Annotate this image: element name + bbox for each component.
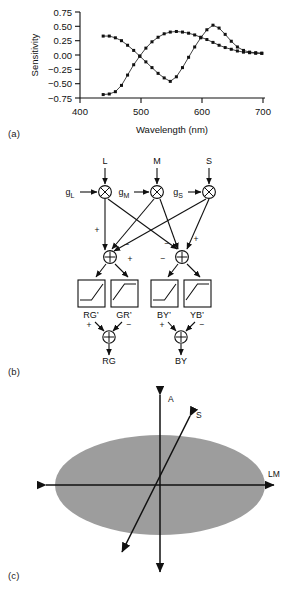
- y-tick-label: 0.75: [54, 7, 73, 18]
- sign-minus-L-sum2: −: [165, 238, 170, 248]
- input-label-S: S: [206, 156, 212, 166]
- chart-series-rg: [102, 30, 264, 96]
- series-marker: [144, 60, 147, 63]
- axis-label-A: A: [168, 394, 174, 404]
- series-marker: [218, 44, 221, 47]
- series-marker: [157, 36, 160, 39]
- rectifier-box-by-prime: [151, 280, 178, 307]
- series-marker: [211, 24, 214, 27]
- y-tick-label: 0.00: [54, 50, 73, 61]
- series-marker: [187, 32, 190, 35]
- series-marker: [120, 84, 123, 87]
- diagram-svg: L M S gL gM gS: [0, 150, 288, 365]
- sum-to-rectifier-arrows: [96, 264, 200, 277]
- figure-root: 0.75 0.50 0.25 0.00 −0.25 −0.50 −0.75 40…: [0, 0, 288, 604]
- gain-label-gL: gL: [66, 187, 75, 199]
- series-line: [103, 25, 262, 81]
- series-marker: [181, 31, 184, 34]
- cone-input-labels: L M S: [102, 156, 212, 166]
- panel-a-label: (a): [8, 128, 20, 139]
- series-marker: [157, 72, 160, 75]
- y-tick-label: 0.25: [54, 35, 73, 46]
- input-label-M: M: [153, 156, 161, 166]
- sign-plus-S-sum1: +: [128, 254, 133, 264]
- y-tick-labels: 0.75 0.50 0.25 0.00 −0.25 −0.50 −0.75: [48, 7, 72, 104]
- series-marker: [126, 74, 129, 77]
- series-marker: [169, 31, 172, 34]
- sign-plus-rg-prime: +: [87, 320, 92, 330]
- sign-plus-L-sum1: +: [95, 225, 100, 235]
- output-sum-glyphs: [104, 332, 186, 342]
- chart-svg: 0.75 0.50 0.25 0.00 −0.25 −0.50 −0.75 40…: [0, 0, 288, 150]
- series-marker: [132, 63, 135, 66]
- rectifier-label-by-prime: BY’: [157, 310, 171, 320]
- output-labels: RG BY: [102, 356, 187, 365]
- y-ticks: [75, 12, 80, 98]
- summation-nodes: [104, 251, 189, 264]
- series-marker: [102, 93, 105, 96]
- series-marker: [144, 47, 147, 50]
- series-marker: [102, 35, 105, 38]
- rectifier-label-rg-prime: RG’: [83, 310, 99, 320]
- series-marker: [260, 52, 263, 55]
- sum-glyphs: [105, 252, 188, 263]
- series-marker: [224, 33, 227, 36]
- output-sum-nodes: [103, 331, 187, 343]
- series-marker: [138, 55, 141, 58]
- series-marker: [126, 44, 129, 47]
- output-label-rg: RG: [102, 356, 116, 365]
- series-marker: [114, 90, 117, 93]
- series-marker: [175, 30, 178, 33]
- series-marker: [114, 36, 117, 39]
- gain-label-gS: gS: [173, 187, 183, 199]
- output-label-by: BY: [175, 356, 187, 365]
- input-arrows: [105, 168, 209, 184]
- series-marker: [205, 38, 208, 41]
- gain-label-gM: gM: [119, 187, 130, 199]
- y-tick-label: 0.50: [54, 21, 73, 32]
- chart-axes: [80, 12, 265, 98]
- series-marker: [175, 75, 178, 78]
- y-axis-title: Sensitivity: [29, 33, 40, 76]
- y-tick-label: −0.25: [48, 64, 72, 75]
- series-marker: [187, 56, 190, 59]
- series-marker: [181, 66, 184, 69]
- series-marker: [254, 52, 257, 55]
- x-tick-label: 500: [133, 106, 149, 117]
- x-ticks: [80, 98, 263, 103]
- x-axis-title: Wavelength (nm): [136, 124, 208, 135]
- series-marker: [132, 49, 135, 52]
- rectifier-to-output-arrows: [95, 322, 195, 331]
- sign-minus-M-sum1: −: [125, 239, 130, 249]
- series-marker: [169, 80, 172, 83]
- series-marker: [193, 33, 196, 36]
- sign-plus-by-prime: +: [160, 320, 165, 330]
- x-tick-labels: 400 500 600 700: [72, 106, 271, 117]
- sign-plus-S-sum2: +: [194, 234, 199, 244]
- sign-minus-gr-prime: −: [127, 319, 132, 329]
- input-label-L: L: [102, 156, 107, 166]
- series-marker: [230, 48, 233, 51]
- rectifier-labels: RG’ GR’ BY’ YB’: [83, 310, 204, 320]
- x-tick-label: 400: [72, 106, 88, 117]
- axis-label-LM: LM: [268, 469, 280, 479]
- series-marker: [236, 49, 239, 52]
- series-marker: [236, 45, 239, 48]
- panel-a-chart: 0.75 0.50 0.25 0.00 −0.25 −0.50 −0.75 40…: [0, 0, 288, 150]
- series-marker: [230, 40, 233, 43]
- output-sign-labels: + − + −: [87, 319, 205, 330]
- panel-b-label: (b): [8, 366, 20, 377]
- series-marker: [163, 32, 166, 35]
- colorspace-svg: A S LM: [0, 380, 288, 580]
- x-tick-label: 600: [194, 106, 210, 117]
- series-marker: [248, 51, 251, 54]
- series-marker: [108, 35, 111, 38]
- sign-minus-M-sum2: −: [161, 253, 166, 263]
- gain-labels: gL gM gS: [66, 187, 184, 199]
- series-marker: [242, 51, 245, 54]
- series-marker: [120, 39, 123, 42]
- sign-minus-yb-prime: −: [200, 319, 205, 329]
- series-marker: [211, 41, 214, 44]
- rectifier-box-rg-prime: [78, 280, 105, 307]
- panel-c-colorspace: A S LM: [0, 380, 288, 580]
